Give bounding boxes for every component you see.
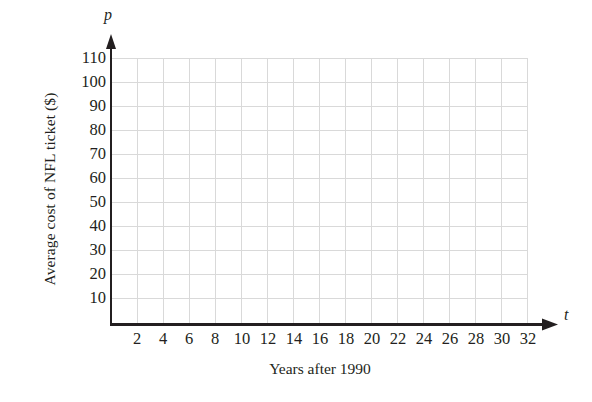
y-axis-title: Average cost of NFL ticket ($) [41,39,59,339]
x-axis-title: Years after 1990 [110,360,530,378]
x-tick-32: 32 [508,331,548,348]
chart-figure: 110 100 90 80 70 60 50 40 30 20 10 2 4 6… [0,0,592,402]
y-axis-variable-label: p [104,6,112,24]
x-tick-labels: 2 4 6 8 10 12 14 16 18 20 22 24 26 28 30… [0,0,592,402]
x-axis-variable-label: t [564,306,568,324]
